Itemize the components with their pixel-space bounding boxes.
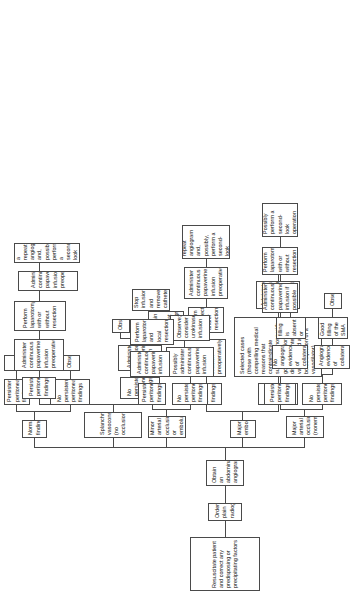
node-mao-sma-absent-label: SMA filling is absent or poor (276, 320, 306, 336)
node-ma-papaverine-label: Administer continuous papaverine infusio… (136, 354, 164, 374)
node-ma-possibly-papaverine: Possibly administer continuous papaverin… (166, 347, 214, 377)
connector-radiographs-to-angiogram (225, 486, 226, 503)
connector-mao-to-nopersistent (322, 405, 323, 410)
connector-splanchnic-stub (113, 405, 114, 412)
connector-mao-to-collaterals (332, 369, 333, 375)
node-me-papaverine-preop2: Administer continuous papaverine infusio… (184, 267, 228, 299)
connector-trunk-to-major-embolus (242, 438, 243, 448)
node-plain-radiographs-label: Order plain radiographs (214, 506, 235, 518)
node-normal-findings-label: Normal findings (27, 423, 41, 435)
node-mao-sma-absent: SMA filling is absent or poor (276, 317, 306, 339)
node-minor-arterial: Minor arterial occlusion or embolus (148, 416, 186, 438)
connector-sv-preop-to-laparotomy (39, 331, 40, 339)
connector-resuscitate-to-radiographs (225, 521, 226, 537)
node-ma-laparotomy-local-label: Perform laparotomy and local resection (134, 322, 169, 342)
connector-sv-laparotomy-to-preop2 (39, 291, 40, 301)
node-major-embolus: Major embolus (230, 420, 256, 438)
node-splanchnic-label: Splanchnic vasoconstriction (no occlusio… (99, 415, 127, 435)
node-ma-no-persistent-label: No persistent peritoneal findings (176, 386, 204, 402)
connector-normal-to-persistent (16, 405, 17, 412)
node-nf-no-persistent: No persistent peritoneal findings (50, 379, 90, 405)
node-sv-papaverine-preop-label: Administer continuous papaverine infusio… (21, 342, 56, 368)
connector-me-to-nopersistent (278, 405, 279, 412)
node-major-arterial-label: Major arterial occlusion (nonembolic) (291, 419, 319, 435)
node-mao-observe-label: Observe (329, 296, 336, 306)
node-sv-repeat-secondlook: Obtain a repeat angiogram and, possibly,… (14, 243, 80, 263)
connector-me-preop2-to-secondlook (206, 259, 207, 267)
node-nf-no-persistent-label: No persistent peritoneal findings (56, 382, 84, 402)
node-ma-stop-infusion-label: Stop infusion and remove catheter (133, 292, 168, 308)
node-nf-observe-label: Observe (66, 358, 73, 368)
connector-normal-to-nopersistent (70, 405, 71, 412)
node-ma-stop-infusion: Stop infusion and remove catheter (132, 289, 170, 311)
node-me-papaverine-preop2-label: Administer continuous papaverine infusio… (188, 270, 223, 296)
node-me-repeat-secondlook: Obtain a repeat angiogram and, possibly,… (182, 225, 230, 259)
connector-mao-laparotomy-to-secondlook (280, 237, 281, 247)
connector-trunk-to-minor-arterial (166, 438, 167, 448)
node-mao-laparotomy: Perform laparotomy with or without resec… (262, 247, 298, 275)
node-sv-persistent-label: Persistent peritoneal findings (28, 380, 49, 396)
node-sv-papaverine-preop: Administer continuous papaverine infusio… (14, 339, 64, 371)
node-ma-persistent: Persistent peritoneal findings (138, 383, 166, 405)
node-mao-observe: Observe (324, 293, 342, 309)
node-major-embolus-label: Major embolus (236, 423, 250, 435)
node-me-repeat-secondlook-label: Obtain a repeat angiogram and, possibly,… (182, 228, 230, 256)
node-minor-arterial-label: Minor arterial occlusion or embolus (149, 419, 184, 435)
node-sv-papaverine-preop2: Administer continuous papaverine infusio… (18, 271, 78, 291)
node-mao-secondlook: Possibly perform a second-look operation (262, 203, 298, 237)
node-major-arterial: Major arterial occlusion (nonembolic) (286, 416, 324, 438)
node-mao-no-collaterals: No angiographic evidence of collaterals (272, 345, 308, 369)
connector-trunk-to-major-arterial (304, 438, 305, 448)
node-angiogram: Obtain an abdominal angiogram (206, 460, 244, 486)
node-ma-observe-urokinase-label: Observe; consider urokinase infusion (176, 318, 204, 338)
connector-trunk-to-normal (34, 438, 35, 448)
connector-nf-persistent-to-laparotomy (16, 371, 17, 379)
node-sv-laparotomy-label: Perform laparotomy with or without resec… (22, 304, 57, 328)
node-resuscitate-label: Resuscitate patient and correct any pred… (211, 540, 239, 588)
connector-me-stub (242, 412, 243, 420)
node-splanchnic: Splanchnic vasoconstriction (no occlusio… (84, 412, 142, 438)
node-mao-good-filling: Good filling of the SMA (318, 317, 348, 339)
connector-mao-nopersistent-stub (322, 375, 323, 383)
node-sv-laparotomy: Perform laparotomy with or without resec… (14, 301, 66, 331)
node-mao-good-filling-label: Good filling of the SMA (319, 320, 347, 336)
node-sv-persistent: Persistent peritoneal findings (22, 377, 56, 399)
connector-normal-stub (34, 412, 35, 420)
node-angiogram-label: Obtain an abdominal angiogram (211, 463, 239, 483)
node-mao-papaverine-if-possible-label: Administer continuous papaverine infusio… (262, 286, 297, 310)
connector-me-split (206, 411, 278, 412)
node-mao-collaterals: Angiographic evidence of collaterals (314, 345, 350, 369)
connector-angiogram-trunk (34, 447, 304, 448)
connector-sv-preop2-to-secondlook (39, 263, 40, 271)
connector-normal-split (16, 411, 70, 412)
connector-angiogram-trunk-stub (225, 448, 226, 460)
node-ma-laparotomy-local: Perform laparotomy and local resection (130, 319, 174, 345)
connector-ma-to-nopersistent (190, 405, 191, 410)
connector-mao-split (280, 409, 322, 410)
connector-ma-to-persistent (152, 405, 153, 410)
connector-ma-split (152, 409, 190, 410)
node-ma-no-persistent: No persistent peritoneal findings (172, 383, 208, 405)
node-sv-observe-label: Observe (117, 322, 124, 330)
node-ma-papaverine: Administer continuous papaverine infusio… (130, 351, 170, 377)
node-normal-findings: Normal findings (22, 420, 47, 438)
connector-good-filling-to-observe (332, 309, 333, 317)
connector-mao-to-persistent (280, 405, 281, 410)
node-mao-collaterals-label: Angiographic evidence of collaterals (318, 348, 346, 366)
node-ma-observe-urokinase: Observe; consider urokinase infusion (170, 315, 210, 341)
connector-nf-nopersistent-to-observe (70, 371, 71, 379)
connector-me-to-persistent (206, 405, 207, 412)
node-resuscitate: Resuscitate patient and correct any pred… (190, 537, 260, 591)
connector-me-embolectomy-to-preop2 (206, 299, 207, 307)
connector-sv-to-persistent (39, 399, 40, 405)
node-mao-no-persistent-label: No persistent peritoneal findings (308, 386, 336, 402)
node-plain-radiographs: Order plain radiographs (208, 503, 242, 521)
node-mao-persistent-label: Persistent peritoneal findings (269, 386, 290, 402)
node-ma-persistent-label: Persistent peritoneal findings (141, 386, 162, 402)
node-mao-no-collaterals-label: No angiographic evidence of collaterals (272, 348, 307, 366)
node-mao-persistent: Persistent peritoneal findings (264, 383, 296, 405)
node-mao-laparotomy-label: Perform laparotomy with or without resec… (262, 250, 297, 272)
node-ma-possibly-papaverine-label: Possibly administer continuous papaverin… (172, 350, 207, 374)
